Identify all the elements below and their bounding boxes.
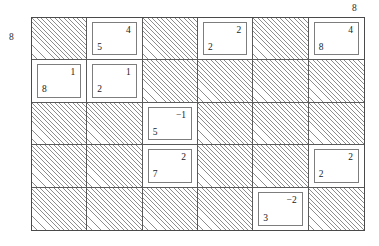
grid-cell-r2-c3[interactable] [143,60,198,102]
grid-cell-r4-c5[interactable] [253,145,308,187]
grid-cell-r4-c6[interactable]: 22 [309,145,364,187]
axis-label-top-right: 8 [352,4,357,14]
grid-cell-r4-c2[interactable] [87,145,142,187]
grid-cell-r1-c4[interactable]: 22 [198,18,253,60]
value-box: 84 [314,22,359,55]
cell-value-corner: −2 [287,196,297,206]
cell-value-corner: 2 [348,153,353,163]
grid-cell-r1-c6[interactable]: 84 [309,18,364,60]
cell-value-corner: 2 [181,153,186,163]
grid-cell-r4-c3[interactable]: 72 [143,145,198,187]
grid-cell-r4-c4[interactable] [198,145,253,187]
value-box: 22 [203,22,247,55]
grid-cell-r2-c4[interactable] [198,60,253,102]
axis-label-left: 8 [9,33,14,43]
grid-cell-r1-c2[interactable]: 54 [87,18,142,60]
cell-value-main: 8 [319,43,324,53]
value-box: 81 [37,64,81,97]
cell-value-corner: 4 [348,26,353,36]
grid-cell-r3-c3[interactable]: 5−1 [143,103,198,145]
grid-cell-r2-c5[interactable] [253,60,308,102]
grid-cell-r3-c6[interactable] [309,103,364,145]
grid-cell-r5-c2[interactable] [87,188,142,230]
cell-value-main: 5 [97,43,102,53]
grid-cell-r3-c2[interactable] [87,103,142,145]
grid-cell-r1-c5[interactable] [253,18,308,60]
cell-value-main: 3 [263,214,268,224]
cell-value-main: 8 [42,85,47,95]
cell-value-corner: 1 [71,68,76,78]
value-box: 3−2 [258,192,302,226]
cell-value-main: 7 [153,170,158,180]
cell-value-corner: 2 [237,26,242,36]
cell-value-corner: −1 [176,111,186,121]
grid-cell-r5-c3[interactable] [143,188,198,230]
value-box: 22 [314,149,359,182]
grid-cell-r4-c1[interactable] [32,145,87,187]
grid-cell-r2-c1[interactable]: 81 [32,60,87,102]
cell-value-main: 5 [153,128,158,138]
grid-cell-r5-c4[interactable] [198,188,253,230]
value-box: 5−1 [148,107,192,140]
cell-value-corner: 4 [126,26,131,36]
cell-value-main: 2 [319,170,324,180]
value-box: 21 [92,64,136,97]
value-box: 54 [92,22,136,55]
grid-diagram: 8 8 54228481215−172223−2 [0,0,379,246]
cell-value-main: 2 [97,85,102,95]
grid-cell-r5-c1[interactable] [32,188,87,230]
grid-cell-r3-c4[interactable] [198,103,253,145]
value-box: 72 [148,149,192,182]
grid-cell-r5-c5[interactable]: 3−2 [253,188,308,230]
grid-cell-r5-c6[interactable] [309,188,364,230]
cell-value-main: 2 [208,43,213,53]
grid-cell-r3-c5[interactable] [253,103,308,145]
grid-cell-r1-c1[interactable] [32,18,87,60]
grid-cell-r3-c1[interactable] [32,103,87,145]
grid-cell-r1-c3[interactable] [143,18,198,60]
cell-grid: 54228481215−172223−2 [31,17,365,231]
cell-value-corner: 1 [126,68,131,78]
grid-cell-r2-c2[interactable]: 21 [87,60,142,102]
grid-cell-r2-c6[interactable] [309,60,364,102]
